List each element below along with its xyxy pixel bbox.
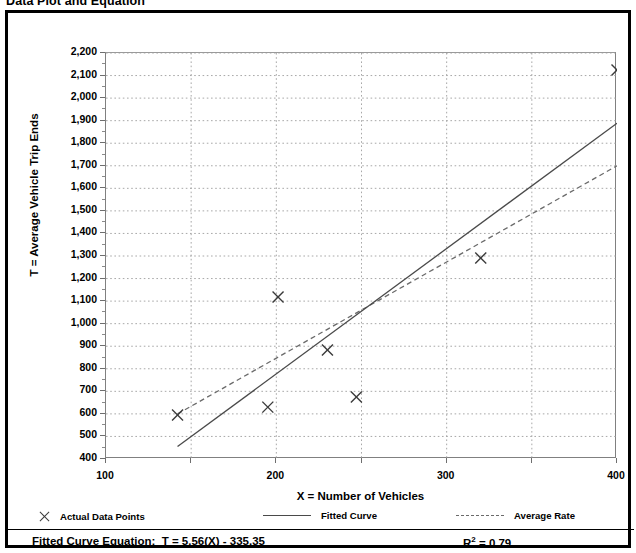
y-tick-label: 600 (41, 406, 97, 418)
data-point (262, 402, 273, 413)
data-point (273, 292, 284, 303)
page-title: Data Plot and Equation (6, 0, 145, 8)
equation-text: T = 5.56(X) - 335.35 (162, 535, 265, 547)
y-axis-label: T = Average Vehicle Trip Ends (28, 85, 40, 305)
x-axis-label: X = Number of Vehicles (105, 490, 616, 502)
dashed-line-icon (456, 515, 504, 516)
data-point (172, 410, 183, 421)
x-tick-label: 200 (253, 469, 297, 481)
y-tick-label: 400 (41, 451, 97, 463)
gridlines (106, 53, 617, 459)
x-tick-label: 400 (594, 469, 636, 481)
y-tick-label: 1,300 (41, 248, 97, 260)
y-tick-label: 2,000 (41, 90, 97, 102)
data-point (612, 64, 618, 75)
data-point (322, 345, 333, 356)
chart-legend: Actual Data Points Fitted Curve Average … (8, 510, 634, 534)
fitted-curve-line (178, 123, 617, 446)
data-point (475, 253, 486, 264)
r2-exponent: 2 (471, 535, 475, 544)
y-tick-label: 1,800 (41, 135, 97, 147)
chart-page: Data Plot and Equation T = Average Vehic… (0, 0, 636, 553)
y-tick-label: 1,600 (41, 180, 97, 192)
r2-number: = 0.79 (479, 537, 511, 549)
legend-item-actual-data-points: Actual Data Points (38, 510, 145, 523)
equation-row: Fitted Curve Equation: T = 5.56(X) - 335… (8, 535, 634, 553)
x-marker-icon (38, 510, 51, 523)
plot-canvas (106, 53, 617, 459)
legend-item-fitted-curve: Fitted Curve (263, 510, 377, 521)
y-tick-label: 1,700 (41, 158, 97, 170)
r-squared-value: R2 = 0.79 (463, 535, 511, 549)
y-tick-label: 1,200 (41, 271, 97, 283)
average-rate-line (178, 166, 617, 414)
y-tick-label: 1,100 (41, 293, 97, 305)
solid-line-icon (263, 515, 311, 516)
x-tick-label: 100 (83, 469, 127, 481)
equation-divider (8, 529, 634, 530)
y-tick-label: 2,200 (41, 45, 97, 57)
y-tick-label: 900 (41, 338, 97, 350)
chart-panel: T = Average Vehicle Trip Ends X = Number… (5, 10, 631, 548)
legend-item-average-rate: Average Rate (456, 510, 575, 521)
y-tick-label: 700 (41, 383, 97, 395)
y-tick-label: 2,100 (41, 68, 97, 80)
y-tick-label: 1,000 (41, 316, 97, 328)
legend-label-fitted: Fitted Curve (321, 510, 377, 521)
plot-area (105, 52, 616, 458)
y-tick-label: 1,400 (41, 225, 97, 237)
x-tick-label: 300 (424, 469, 468, 481)
legend-label-actual: Actual Data Points (60, 511, 145, 522)
y-tick-label: 1,900 (41, 113, 97, 125)
y-tick-label: 500 (41, 428, 97, 440)
equation-label: Fitted Curve Equation: (32, 535, 155, 547)
y-tick-label: 1,500 (41, 203, 97, 215)
data-points (172, 64, 617, 420)
y-tick-label: 800 (41, 361, 97, 373)
data-point (351, 391, 362, 402)
fitted-equation: Fitted Curve Equation: T = 5.56(X) - 335… (32, 535, 265, 547)
legend-label-average: Average Rate (514, 510, 575, 521)
